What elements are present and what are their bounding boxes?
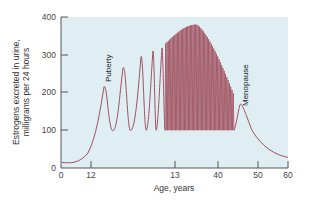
- x-tick-60: 60: [283, 170, 293, 180]
- y-tick-0: 0: [51, 163, 56, 173]
- y-axis-title-line2: milligrams per 24 hours: [21, 48, 31, 136]
- y-tick-100: 100: [42, 125, 56, 135]
- annotation-puberty: Puberty: [104, 54, 113, 82]
- x-tick-0: 0: [59, 170, 64, 180]
- y-tick-300: 300: [42, 50, 56, 60]
- x-tick-12: 12: [86, 170, 96, 180]
- x-tick-labels: 0 12 13 40 50 60: [59, 170, 293, 180]
- estrogen-chart: 400 300 200 100 0 0 12 13 40 50 60 Age, …: [0, 0, 312, 200]
- annotation-menopause: Menopause: [241, 64, 250, 106]
- y-axis-title-line1: Estrogens excreted in urine,: [11, 39, 21, 145]
- y-tick-200: 200: [42, 87, 56, 97]
- x-tick-40: 40: [213, 170, 223, 180]
- x-tick-13: 13: [170, 170, 180, 180]
- x-tick-50: 50: [253, 170, 263, 180]
- x-axis-title: Age, years: [154, 183, 195, 193]
- y-tick-labels: 400 300 200 100 0: [42, 12, 56, 173]
- y-tick-400: 400: [42, 12, 56, 22]
